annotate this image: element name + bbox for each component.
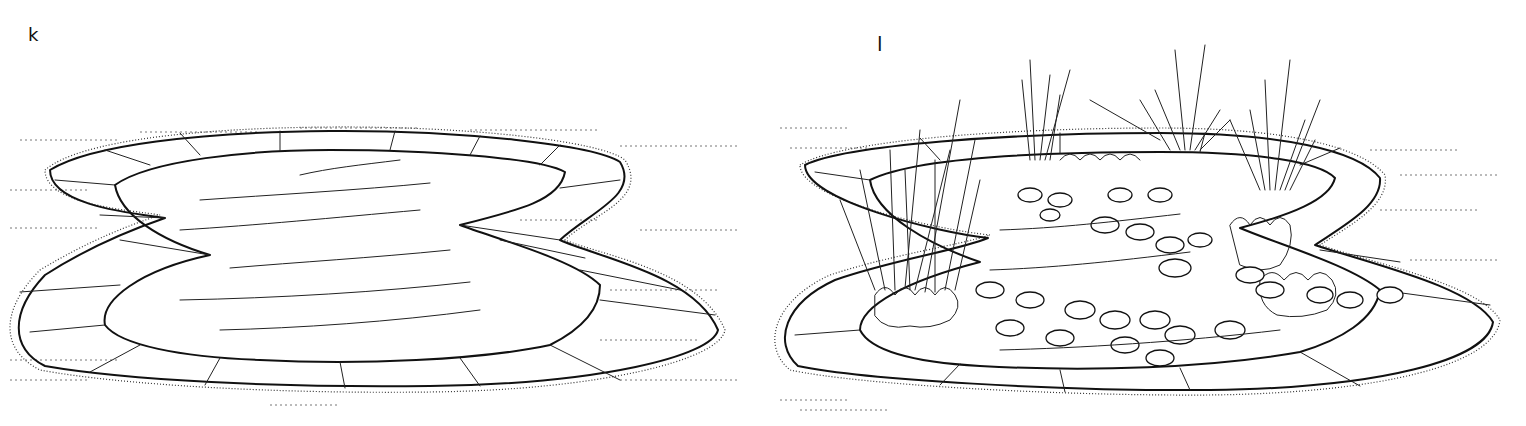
- illustration-panel-l: l: [760, 0, 1526, 426]
- planted-pond-drawing: [760, 0, 1526, 426]
- empty-pond-drawing: [0, 0, 760, 426]
- illustration-panel-k: k: [0, 0, 760, 426]
